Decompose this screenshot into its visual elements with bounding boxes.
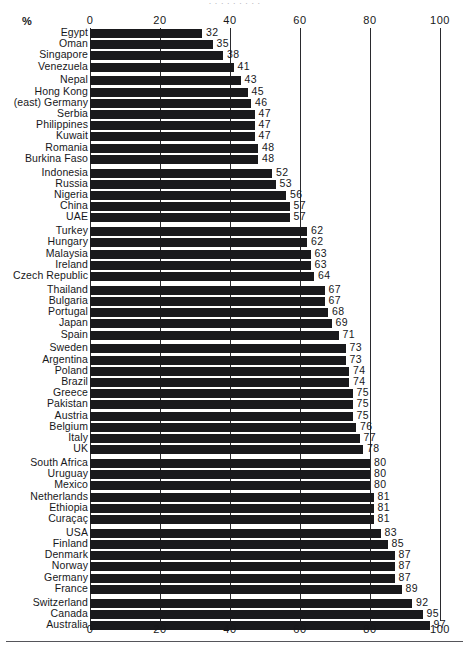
bar-value-label: 87 (399, 572, 411, 583)
bar (90, 297, 325, 306)
bar-value-label: 48 (262, 153, 274, 164)
bar-row: UAE57 (0, 213, 469, 222)
bar (90, 459, 370, 468)
bar-value-label: 75 (357, 410, 369, 421)
bar-category-label: Switzerland (33, 597, 88, 608)
bar (90, 191, 286, 200)
bar-category-label: Argentina (42, 354, 88, 365)
bar (90, 261, 311, 270)
bar (90, 51, 223, 60)
bar-value-label: 78 (367, 443, 379, 454)
bar-row: France89 (0, 585, 469, 594)
bar-category-label: Netherlands (30, 491, 88, 502)
bar (90, 155, 258, 164)
bar-value-label: 52 (276, 167, 288, 178)
bar (90, 504, 374, 513)
axis-tick-label: 100 (430, 623, 450, 635)
axis-tick-label: 100 (430, 14, 450, 26)
bar (90, 412, 353, 421)
bar (90, 202, 290, 211)
bar (90, 445, 363, 454)
bar (90, 599, 412, 608)
bar-row: Curaçaç81 (0, 515, 469, 524)
axis-tick-label: 60 (293, 623, 306, 635)
bar (90, 180, 276, 189)
bar-category-label: Hong Kong (35, 86, 88, 97)
bar-category-label: Spain (61, 329, 88, 340)
bar (90, 169, 272, 178)
bar-category-label: Venezuela (38, 61, 88, 72)
bar-value-label: 92 (416, 597, 428, 608)
bar-category-label: Malaysia (46, 248, 88, 259)
bar-category-label: Mexico (54, 479, 88, 490)
bar-category-label: Czech Republic (13, 270, 88, 281)
bar-category-label: Singapore (39, 49, 88, 60)
bar-value-label: 62 (311, 236, 323, 247)
axis-tick-label: 0 (87, 14, 94, 26)
bar-value-label: 69 (336, 317, 348, 328)
bar-row: Venezuela41 (0, 63, 469, 72)
bar-value-label: 81 (378, 513, 390, 524)
bar-value-label: 63 (315, 248, 327, 259)
axis-bottom: 020406080100 (0, 623, 469, 637)
axis-tick-label: 0 (87, 623, 94, 635)
bar-category-label: Japan (59, 317, 88, 328)
bar (90, 76, 241, 85)
bar (90, 551, 395, 560)
bar-value-label: 64 (318, 270, 330, 281)
bar (90, 40, 213, 49)
bar-category-label: Austria (55, 410, 88, 421)
bar (90, 29, 202, 38)
bar-category-label: Kuwait (56, 130, 88, 141)
bar (90, 144, 258, 153)
bar (90, 319, 332, 328)
bar-category-label: UK (73, 443, 88, 454)
bar (90, 400, 353, 409)
bar-category-label: Burkina Faso (25, 153, 88, 164)
bar-category-label: UAE (66, 211, 88, 222)
bar-category-label: France (55, 583, 88, 594)
bar (90, 272, 314, 281)
bar (90, 308, 328, 317)
horizontal-bar-chart: · · · · · · · · · % 020406080100 Egypt32… (0, 0, 469, 649)
bar (90, 121, 255, 130)
bar (90, 99, 251, 108)
bar (90, 562, 395, 571)
bar-value-label: 87 (399, 560, 411, 571)
bar (90, 344, 346, 353)
axis-tick-label: 20 (153, 623, 166, 635)
bar-value-label: 80 (374, 479, 386, 490)
bar (90, 493, 374, 502)
bar-value-label: 71 (343, 329, 355, 340)
bar (90, 378, 349, 387)
bar (90, 110, 255, 119)
bar (90, 481, 370, 490)
bar (90, 434, 360, 443)
bar (90, 470, 370, 479)
bar-value-label: 47 (259, 130, 271, 141)
bar-value-label: 73 (350, 342, 362, 353)
bar-row: UK78 (0, 445, 469, 454)
bar-row: Italy77 (0, 434, 469, 443)
bar-category-label: Romania (45, 142, 88, 153)
axis-tick-label: 20 (153, 14, 166, 26)
bar-row: Czech Republic64 (0, 272, 469, 281)
bar (90, 238, 307, 247)
bar (90, 286, 325, 295)
bar-category-label: Sweden (49, 342, 88, 353)
bar (90, 529, 381, 538)
bar-category-label: Germany (44, 572, 88, 583)
axis-tick-label: 40 (223, 623, 236, 635)
bar-value-label: 38 (227, 49, 239, 60)
bar-value-label: 89 (406, 583, 418, 594)
bar-value-label: 43 (245, 74, 257, 85)
bar (90, 540, 388, 549)
bar-category-label: Hungary (48, 236, 88, 247)
bar (90, 389, 353, 398)
bar-value-label: 45 (252, 86, 264, 97)
axis-tick-label: 60 (293, 14, 306, 26)
bar (90, 574, 395, 583)
bar-category-label: Pakistan (47, 398, 88, 409)
bar (90, 132, 255, 141)
axis-tick-label: 80 (363, 14, 376, 26)
